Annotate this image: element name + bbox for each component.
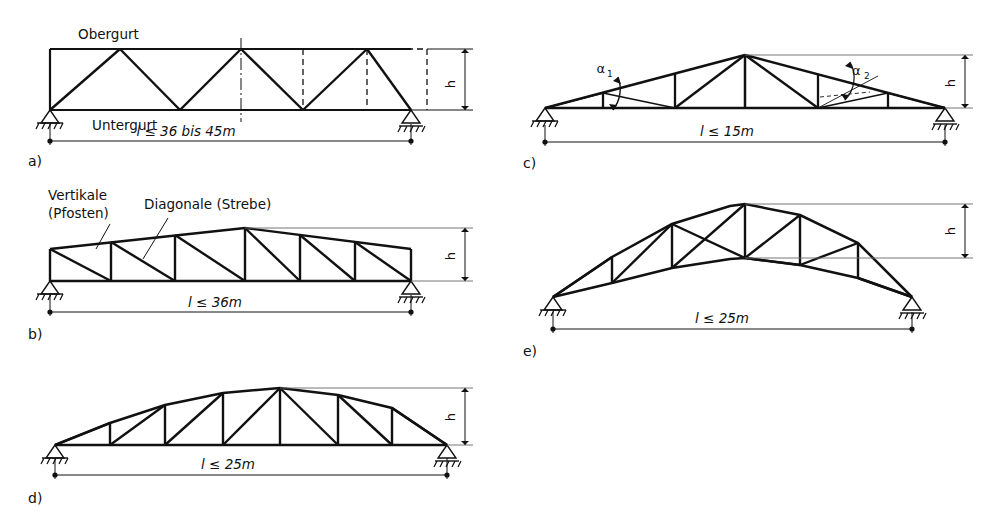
b-diagonal (111, 242, 175, 281)
b-diagonal (175, 235, 245, 281)
e-diagonal (800, 243, 858, 265)
a-diagonal (120, 49, 180, 110)
caption-a: a) (28, 153, 42, 169)
b-top-chord-left (50, 228, 245, 249)
b-diagonal (245, 228, 300, 281)
b-span-label: l ≤ 36m (188, 294, 242, 310)
c-height-tick-bottom (961, 104, 969, 108)
d-height-label: h (443, 413, 458, 421)
a-diagonal (241, 49, 303, 110)
c-strut (675, 55, 745, 108)
c-support-pinned (531, 108, 558, 127)
d-diagonal (280, 388, 338, 445)
c-height-tick-top (961, 55, 969, 59)
a-diagonal (303, 49, 367, 110)
label-untergurt: Untergurt (92, 117, 157, 133)
d-diagonal (392, 408, 447, 445)
e-diagonal (745, 258, 800, 265)
b-height-tick-top (461, 228, 469, 232)
a-diagonal (180, 49, 241, 110)
label-obergurt: Obergurt (78, 26, 139, 42)
d-span-label: l ≤ 25m (201, 456, 255, 472)
e-height-label: h (943, 227, 958, 235)
d-height-tick-top (461, 388, 469, 392)
label-diagonale: Diagonale (Strebe) (144, 196, 271, 212)
a-height-label: h (443, 80, 458, 88)
e-span-label: l ≤ 25m (695, 310, 749, 326)
panel-a: h l ≤ 36 bis 45m Obergurt Untergurt a) (28, 26, 473, 169)
e-diagonal (745, 215, 800, 258)
b-top-chord-right (245, 228, 411, 249)
panel-d: h l ≤ 25m d) (28, 388, 473, 506)
b-diagonal (50, 249, 111, 281)
a-diagonal (367, 49, 411, 110)
panel-b: h l ≤ 36m Vertikale (Pfosten) Diagonale … (28, 187, 473, 342)
e-diagonal (672, 224, 745, 258)
figure-canvas: h l ≤ 36 bis 45m Obergurt Untergurt a) (0, 0, 1005, 524)
a-diagonal (50, 49, 120, 110)
truss-figure-svg: h l ≤ 36 bis 45m Obergurt Untergurt a) (0, 0, 1005, 524)
d-diagonal (110, 405, 165, 445)
c-alpha2-sub: 2 (864, 71, 870, 81)
c-height-label: h (943, 79, 958, 87)
b-height-label: h (443, 252, 458, 260)
d-diagonal (55, 423, 110, 445)
d-diagonal (223, 388, 280, 445)
a-height-tick-top (461, 49, 469, 53)
label-vertikale-line2: (Pfosten) (48, 205, 109, 221)
e-height-tick-bottom (961, 254, 969, 258)
caption-c: c) (523, 155, 536, 171)
c-span-label: l ≤ 15m (700, 123, 754, 139)
caption-d: d) (28, 490, 42, 506)
d-diagonal (165, 393, 223, 445)
d-height-tick-bottom (461, 441, 469, 445)
e-height-tick-top (961, 204, 969, 208)
caption-e: e) (523, 343, 537, 359)
c-strut (745, 55, 818, 108)
c-alpha2-label: α (852, 63, 861, 78)
panel-e: h l ≤ 25m e) (523, 204, 973, 359)
c-alpha1-label: α (596, 61, 605, 76)
caption-b: b) (28, 326, 42, 342)
label-vertikale-line1: Vertikale (48, 187, 107, 203)
c-eave-diagonal (545, 93, 603, 108)
a-height-tick-bottom (461, 106, 469, 110)
e-diagonal (612, 224, 672, 283)
panel-c: α 1 α 2 h l ≤ 15m c) (523, 55, 973, 171)
b-leader-vertikale (96, 224, 110, 249)
b-height-tick-bottom (461, 277, 469, 281)
c-eave-diagonal (818, 93, 888, 108)
c-alpha1-sub: 1 (607, 69, 613, 79)
c-eave-diagonal (888, 93, 945, 108)
